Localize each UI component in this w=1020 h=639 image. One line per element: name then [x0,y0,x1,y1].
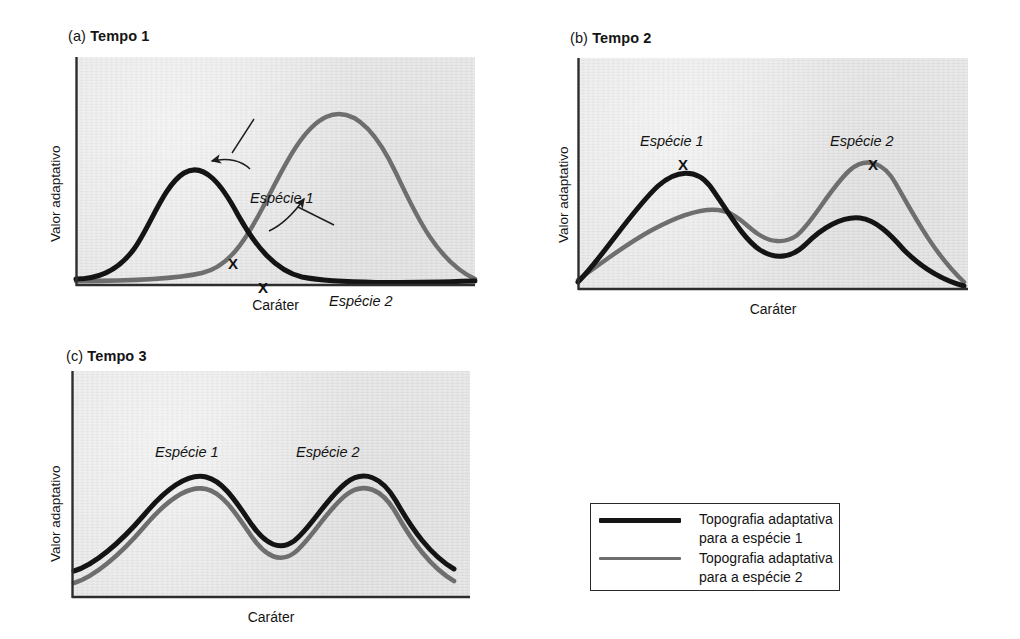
panel-b-y-axis-label: Valor adaptativo [556,146,571,243]
panel-b-species1-marker: X [678,156,688,173]
panel-b-name: Tempo 2 [592,30,651,46]
legend-item-species2: Topografia adaptativa para a espécie 2 [599,549,835,587]
panel-tempo-3: (c) Tempo 3 Valor adaptativo Espécie 1 E… [0,330,500,639]
panel-c-title: (c) Tempo 3 [66,348,147,364]
panel-tempo-2: (b) Tempo 2 Valor adaptativo Espécie 1 X… [0,0,1020,330]
panel-b-species1-curve [578,173,964,286]
legend: Topografia adaptativa para a espécie 1 T… [590,503,840,591]
legend-label-species1: Topografia adaptativa para a espécie 1 [699,510,833,548]
panel-c-species2-label: Espécie 2 [296,444,360,460]
panel-c-plot-svg [72,371,470,598]
panel-b-species2-curve [578,162,964,282]
panel-b-species2-marker: X [868,156,878,173]
legend-line-gray-icon [599,557,681,560]
legend-item-species1: Topografia adaptativa para a espécie 1 [599,510,835,548]
panel-c-y-axis-label: Valor adaptativo [48,465,63,562]
panel-b-x-axis-label: Caráter [578,301,968,317]
panel-c-tag: (c) [66,348,83,364]
panel-b-species1-label: Espécie 1 [640,133,704,149]
legend-label-species2: Topografia adaptativa para a espécie 2 [699,549,833,587]
panel-b-tag: (b) [570,30,588,46]
panel-b-title: (b) Tempo 2 [570,30,651,46]
panel-c-name: Tempo 3 [87,348,146,364]
legend-line-black-icon [599,518,681,523]
panel-c-species1-label: Espécie 1 [155,444,219,460]
panel-c-species1-curve [74,476,454,571]
panel-b-species2-label: Espécie 2 [830,133,894,149]
figure-root: (a) Tempo 1 Valor adaptativo [0,0,1020,639]
panel-b-plot-svg [578,58,968,290]
panel-c-x-axis-label: Caráter [72,609,470,625]
panel-b-plot-area: Espécie 1 X Espécie 2 X [578,58,968,290]
panel-c-plot-area: Espécie 1 Espécie 2 [72,371,470,598]
